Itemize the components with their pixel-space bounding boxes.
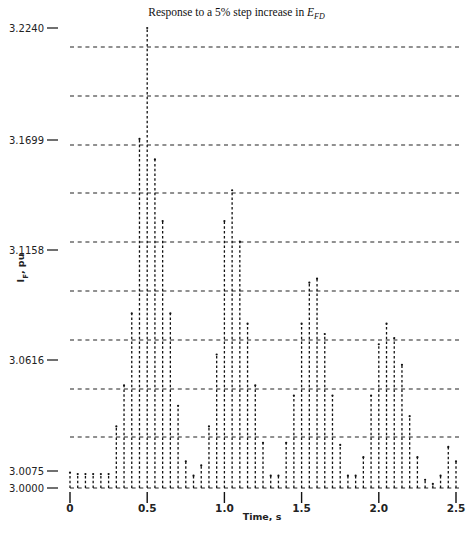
x-tick-label: 2.0	[369, 502, 388, 514]
data-point-marker	[455, 460, 457, 462]
gridlines	[70, 47, 462, 488]
y-tick-label: 3.0075	[9, 466, 44, 477]
data-point-marker	[162, 220, 164, 222]
data-point-marker	[239, 240, 241, 242]
data-point-marker	[254, 384, 256, 386]
data-point-marker	[177, 405, 179, 407]
x-tick-label: 0	[66, 502, 73, 514]
x-tick-label: 0.5	[138, 502, 157, 514]
data-point-marker	[355, 475, 357, 477]
data-point-marker	[138, 138, 140, 140]
data-point-marker	[409, 415, 411, 417]
data-point-marker	[285, 442, 287, 444]
data-point-marker	[131, 312, 133, 314]
data-point-marker	[192, 475, 194, 477]
plot-area: 3.00003.00753.06163.11583.16993.2240 00.…	[0, 0, 473, 535]
data-point-marker	[100, 473, 102, 475]
data-point-marker	[347, 475, 349, 477]
y-axis-label: IF, pu	[15, 254, 30, 283]
data-point-marker	[92, 473, 94, 475]
data-point-marker	[308, 282, 310, 284]
data-point-marker	[293, 394, 295, 396]
x-tick-label: 1.5	[292, 502, 311, 514]
data-point-marker	[270, 475, 272, 477]
x-tick-label: 1.0	[215, 502, 234, 514]
data-point-marker	[324, 333, 326, 335]
data-point-marker	[331, 394, 333, 396]
data-point-marker	[115, 425, 117, 427]
data-point-marker	[231, 189, 233, 191]
y-tick-label: 3.2240	[9, 23, 44, 34]
data-point-marker	[370, 394, 372, 396]
data-point-marker	[216, 353, 218, 355]
data-point-marker	[385, 323, 387, 325]
data-point-marker	[154, 158, 156, 160]
data-point-marker	[362, 456, 364, 458]
data-point-marker	[301, 323, 303, 325]
data-point-marker	[77, 473, 79, 475]
data-point-marker	[208, 425, 210, 427]
data-point-marker	[339, 444, 341, 446]
data-point-marker	[223, 220, 225, 222]
y-tick-label: 3.0616	[9, 355, 44, 366]
y-tick-label: 3.1699	[9, 135, 44, 146]
data-point-marker	[378, 343, 380, 345]
data-point-marker	[146, 27, 148, 29]
data-point-marker	[200, 464, 202, 466]
data-point-marker	[69, 471, 71, 473]
data-point-marker	[246, 323, 248, 325]
x-tick-label: 2.5	[447, 502, 466, 514]
data-point-marker	[169, 312, 171, 314]
data-point-marker	[439, 475, 441, 477]
data-point-marker	[123, 384, 125, 386]
data-point-marker	[277, 475, 279, 477]
data-point-marker	[393, 337, 395, 339]
data-point-marker	[108, 473, 110, 475]
data-point-marker	[84, 473, 86, 475]
data-point-marker	[316, 277, 318, 279]
data-point-marker	[416, 456, 418, 458]
data-point-marker	[262, 442, 264, 444]
y-tick-label: 3.0000	[9, 483, 44, 494]
data-point-marker	[447, 446, 449, 448]
data-point-marker	[424, 479, 426, 481]
data-point-marker	[432, 483, 434, 485]
data-point-marker	[185, 460, 187, 462]
data-point-marker	[401, 364, 403, 366]
x-axis-label: Time, s	[243, 511, 282, 522]
